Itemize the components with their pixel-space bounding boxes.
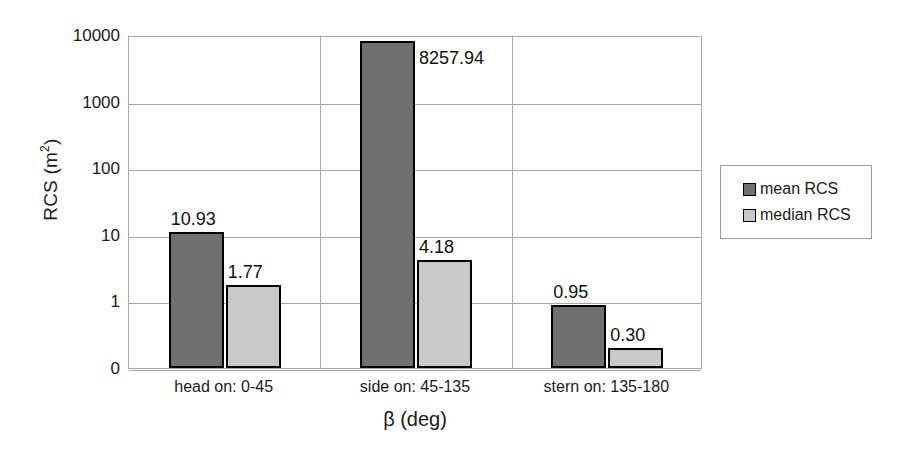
- y-axis-tick-0: 0: [0, 359, 120, 379]
- bar-median-2: [608, 348, 663, 368]
- y-axis-tick-labels: 1000010001001010: [0, 0, 120, 456]
- y-axis-tick-100: 100: [0, 159, 120, 179]
- bar-value-label: 0.95: [553, 282, 588, 303]
- bar-value-label: 8257.94: [419, 48, 484, 69]
- plot-area: 10.931.778257.944.180.950.30: [128, 36, 702, 369]
- bar-mean-1: [360, 41, 415, 368]
- y-axis-tick-10000: 10000: [0, 26, 120, 46]
- bar-median-1: [417, 260, 472, 368]
- x-axis-category-1: side on: 45-135: [360, 378, 470, 396]
- y-axis-tick-1000: 1000: [0, 93, 120, 113]
- bar-value-label: 10.93: [171, 209, 216, 230]
- x-axis-title: β (deg): [128, 408, 702, 431]
- y-axis-tick-10: 10: [0, 226, 120, 246]
- bar-value-label: 1.77: [228, 262, 263, 283]
- legend-item-label: median RCS: [760, 206, 851, 224]
- legend-item-mean-rcs[interactable]: mean RCS: [743, 176, 871, 202]
- rcs-bar-chart: RCS (m2) 1000010001001010 10.931.778257.…: [0, 0, 916, 456]
- bar-median-0: [226, 285, 281, 368]
- gridline-horizontal: [129, 170, 701, 171]
- bar-value-label: 0.30: [610, 325, 645, 346]
- legend-item-label: mean RCS: [760, 180, 838, 198]
- gridline-horizontal: [129, 370, 701, 371]
- x-axis-category-2: stern on: 135-180: [544, 378, 669, 396]
- y-axis-tick-1: 1: [0, 292, 120, 312]
- bar-mean-2: [551, 305, 606, 368]
- legend-swatch-icon: [743, 209, 756, 222]
- bar-value-label: 4.18: [419, 237, 454, 258]
- bar-mean-0: [169, 232, 224, 368]
- legend: mean RCSmedian RCS: [720, 165, 872, 239]
- x-axis-category-0: head on: 0-45: [174, 378, 273, 396]
- gridline-category-separator: [320, 37, 321, 368]
- gridline-category-separator: [512, 37, 513, 368]
- legend-swatch-icon: [743, 183, 756, 196]
- gridline-horizontal: [129, 104, 701, 105]
- legend-item-median-rcs[interactable]: median RCS: [743, 202, 871, 228]
